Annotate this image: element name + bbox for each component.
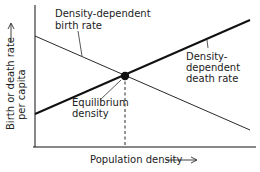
y-axis-label-2: per capita	[16, 69, 27, 120]
x-axis-label: Population density	[90, 154, 182, 165]
death-rate-leader	[207, 40, 208, 48]
death-rate-label-1: Density-	[186, 51, 228, 62]
birth-rate-label-1: Density-dependent	[55, 8, 151, 19]
equilibrium-point	[121, 72, 129, 80]
equilibrium-label-1: Equilibrium	[72, 97, 129, 108]
y-axis-label-1: Birth or death rate	[5, 37, 16, 130]
death-rate-label-2: dependent	[186, 62, 240, 73]
equilibrium-label-2: density	[72, 108, 109, 119]
death-rate-label-3: death rate	[186, 73, 238, 84]
birth-rate-label-2: birth rate	[55, 20, 102, 31]
birth-rate-leader	[78, 31, 82, 56]
population-density-diagram: Density-dependent birth rate Density- de…	[0, 0, 260, 172]
